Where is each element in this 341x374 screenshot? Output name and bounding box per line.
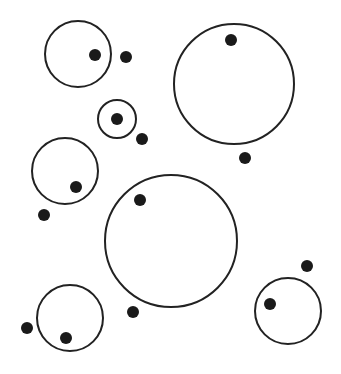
dot-14 — [60, 332, 72, 344]
dot-6 — [239, 152, 251, 164]
dot-3 — [111, 113, 123, 125]
circles-and-points-diagram — [0, 0, 341, 374]
background — [0, 0, 341, 374]
dot-9 — [134, 194, 146, 206]
dot-7 — [70, 181, 82, 193]
dot-5 — [225, 34, 237, 46]
dot-10 — [301, 260, 313, 272]
dot-12 — [127, 306, 139, 318]
dot-13 — [21, 322, 33, 334]
dot-2 — [120, 51, 132, 63]
dot-8 — [38, 209, 50, 221]
dot-4 — [136, 133, 148, 145]
dot-11 — [264, 298, 276, 310]
dot-1 — [89, 49, 101, 61]
